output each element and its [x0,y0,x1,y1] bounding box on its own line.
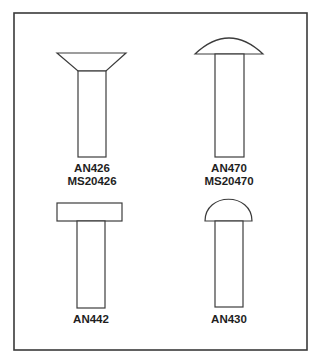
rivet-shank [77,221,105,308]
rivet-roundhead [205,199,252,307]
round-head-icon [205,199,252,221]
rivet-flathead [57,203,122,308]
rivet-label-ms20426: MS20426 [67,175,116,187]
diagram-frame [14,13,307,350]
universal-head-icon [195,38,263,54]
rivet-label-an426: AN426 [74,162,110,174]
flat-head-icon [57,203,122,221]
rivet-countersunk [57,53,126,157]
rivet-label-an430: AN430 [211,313,247,325]
rivet-diagram: AN426 MS20426 AN470 MS20470 AN442 AN430 [0,0,320,360]
rivet-label-an442: AN442 [73,313,109,325]
rivet-shank [215,54,244,157]
rivet-label-ms20470: MS20470 [204,175,253,187]
rivet-universal [195,38,263,157]
rivet-shank [215,221,243,307]
rivet-shank [78,71,106,157]
rivet-label-an470: AN470 [211,162,247,174]
countersunk-head-icon [57,53,126,71]
